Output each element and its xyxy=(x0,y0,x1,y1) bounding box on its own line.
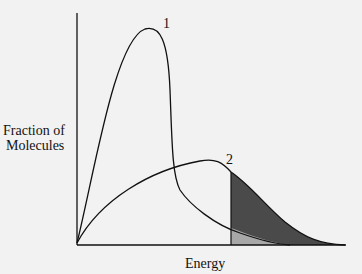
curve-2 xyxy=(77,160,345,245)
x-axis-label: Energy xyxy=(185,256,225,271)
y-axis-label-line2: Molecules xyxy=(6,138,64,153)
curve-2-label: 2 xyxy=(226,152,233,167)
y-axis-label-line1: Fraction of xyxy=(3,123,65,138)
energy-distribution-chart: 1 2 Energy Fraction of Molecules xyxy=(0,0,362,274)
curve-1-label: 1 xyxy=(163,16,170,31)
dark-shaded-area xyxy=(231,172,345,245)
